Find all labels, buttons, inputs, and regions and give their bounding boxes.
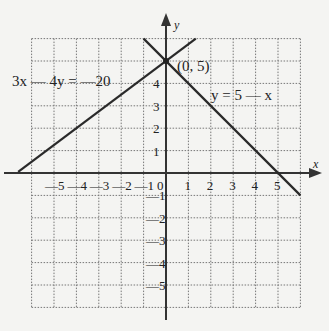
y-tick-label: —4 [145, 256, 166, 271]
y-tick-label: 1 [153, 144, 160, 159]
y-tick-label: 4 [153, 76, 160, 91]
coordinate-plane: —5—4—3—2—10123454321—1—2—3—4—5 x y 3x — … [0, 0, 329, 331]
x-tick-label: —2 [111, 178, 132, 193]
x-tick-label: —4 [66, 178, 87, 193]
intersection-point [163, 58, 169, 64]
y-tick-label: —2 [145, 211, 166, 226]
x-tick-label: —5 [44, 178, 65, 193]
x-tick-label: 2 [207, 178, 214, 193]
x-tick-label: 1 [184, 178, 191, 193]
x-tick-label: —3 [89, 178, 110, 193]
line2-label: y = 5 — x [211, 87, 272, 103]
y-tick-label: 3 [153, 99, 160, 114]
y-tick-label: 2 [153, 121, 160, 136]
plotted-lines [18, 39, 300, 196]
y-tick-label: —1 [145, 188, 166, 203]
y-tick-label: —3 [145, 233, 166, 248]
point-label: (0, 5) [177, 58, 210, 75]
x-axis-label: x [312, 157, 319, 171]
x-tick-label: 4 [252, 178, 259, 193]
y-axis-arrow-icon [161, 13, 171, 26]
y-tick-label: —5 [145, 278, 166, 293]
x-tick-label: 3 [229, 178, 236, 193]
line-series-1 [18, 39, 196, 172]
tick-labels: —5—4—3—2—10123454321—1—2—3—4—5 [44, 76, 281, 293]
y-axis-label: y [173, 18, 180, 32]
x-tick-label: 5 [274, 178, 281, 193]
line1-label: 3x — 4y = —20 [12, 73, 110, 89]
